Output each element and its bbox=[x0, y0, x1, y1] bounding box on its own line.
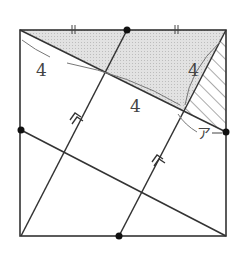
geometry-diagram: 4 4 4 ア bbox=[0, 0, 248, 264]
point-bottom-mid bbox=[116, 233, 123, 240]
length-label-right: 4 bbox=[188, 60, 199, 80]
point-top-mid bbox=[124, 27, 131, 34]
point-right-mid bbox=[223, 129, 230, 136]
point-left-mid bbox=[18, 127, 25, 134]
line-left-mid-to-bottomright bbox=[21, 130, 226, 236]
parallel-arrow-right-icon bbox=[152, 155, 165, 166]
length-label-middle: 4 bbox=[130, 96, 141, 116]
angle-label: ア bbox=[197, 125, 211, 141]
length-label-left: 4 bbox=[36, 60, 47, 80]
